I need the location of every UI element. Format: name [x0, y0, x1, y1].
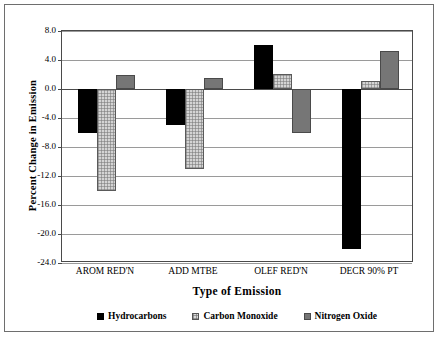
x-axis-tick-label: AROM RED'N [61, 266, 149, 276]
legend-item-label: Carbon Monoxide [203, 311, 277, 321]
bar-nitrogen-oxide[interactable] [292, 89, 311, 133]
bar-nitrogen-oxide[interactable] [204, 78, 223, 89]
legend-swatch-icon [97, 313, 104, 320]
bar-hydrocarbons[interactable] [78, 89, 97, 133]
y-axis-tick-label: -24.0 [4, 257, 56, 267]
bar-group [238, 31, 326, 261]
bar-carbon-monoxide[interactable] [185, 89, 204, 169]
legend-item[interactable]: Carbon Monoxide [192, 311, 277, 321]
x-axis-title: Type of Emission [61, 285, 413, 297]
y-axis-tick-label: 4.0 [4, 54, 56, 64]
y-axis-tick-label: 0.0 [4, 83, 56, 93]
bar-hydrocarbons[interactable] [342, 89, 361, 249]
x-axis-tick-label: DECR 90% PT [325, 266, 413, 276]
y-axis-tick-label: -16.0 [4, 199, 56, 209]
y-axis-tick-label: -12.0 [4, 170, 56, 180]
bar-group [150, 31, 238, 261]
legend-item-label: Hydrocarbons [108, 311, 166, 321]
x-axis-tick-labels: AROM RED'NADD MTBEOLEF RED'NDECR 90% PT [61, 266, 413, 282]
bar-group [326, 31, 414, 261]
legend-item[interactable]: Nitrogen Oxide [304, 311, 377, 321]
legend-swatch-icon [192, 313, 199, 320]
y-axis-tick-label: -8.0 [4, 141, 56, 151]
plot-area [61, 30, 413, 262]
legend-item-label: Nitrogen Oxide [315, 311, 377, 321]
bar-group [62, 31, 150, 261]
chart-figure: Percent Change in Emission 8.04.00.0-4.0… [0, 0, 439, 337]
legend-swatch-icon [304, 313, 311, 320]
bar-nitrogen-oxide[interactable] [380, 51, 399, 89]
bar-carbon-monoxide[interactable] [97, 89, 116, 191]
bar-nitrogen-oxide[interactable] [116, 75, 135, 90]
gridline [62, 263, 412, 264]
y-axis-tickmark [58, 263, 62, 264]
y-axis-tick-label: -20.0 [4, 228, 56, 238]
y-axis-tick-label: -4.0 [4, 112, 56, 122]
legend-item[interactable]: Hydrocarbons [97, 311, 166, 321]
x-axis-tick-label: ADD MTBE [149, 266, 237, 276]
bar-carbon-monoxide[interactable] [273, 74, 292, 89]
y-axis-tick-label: 8.0 [4, 25, 56, 35]
bar-hydrocarbons[interactable] [254, 45, 273, 89]
y-axis-tick-labels: 8.04.00.0-4.0-8.0-12.0-16.0-20.0-24.0 [0, 30, 56, 262]
chart-legend: HydrocarbonsCarbon MonoxideNitrogen Oxid… [61, 308, 413, 324]
x-axis-tick-label: OLEF RED'N [237, 266, 325, 276]
bar-hydrocarbons[interactable] [166, 89, 185, 125]
bar-carbon-monoxide[interactable] [361, 81, 380, 89]
